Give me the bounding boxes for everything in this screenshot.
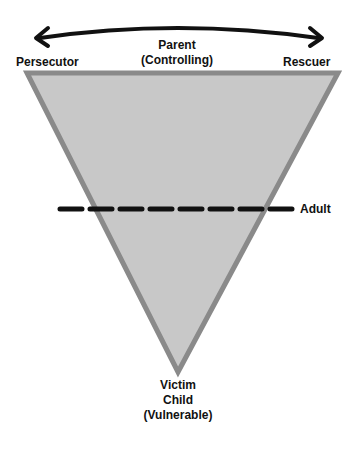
parent-label-line2: (Controlling)	[127, 53, 227, 68]
persecutor-label: Persecutor	[16, 55, 79, 70]
victim-label-line2: Child	[128, 393, 228, 408]
victim-label-line1: Victim	[128, 378, 228, 393]
victim-label-line3: (Vulnerable)	[128, 408, 228, 423]
parent-label-line1: Parent	[127, 38, 227, 53]
adult-label: Adult	[300, 202, 331, 217]
triangle	[27, 73, 338, 372]
parent-label: Parent (Controlling)	[127, 38, 227, 68]
rescuer-label: Rescuer	[283, 55, 330, 70]
victim-label: Victim Child (Vulnerable)	[128, 378, 228, 423]
